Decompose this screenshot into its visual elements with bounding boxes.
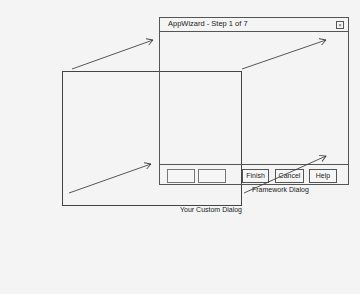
arrow-top-left (72, 40, 153, 69)
mapping-arrows (0, 0, 360, 294)
arrow-bottom-right (244, 156, 326, 193)
arrow-top-right (242, 40, 326, 69)
arrow-bottom-left (69, 164, 151, 193)
